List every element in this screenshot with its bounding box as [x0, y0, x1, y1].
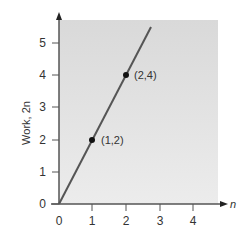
chart: 0 1 2 3 4 5 0 1 2 3 4 n Work, 2n (1,2) (…	[0, 0, 244, 243]
x-axis-title: n	[230, 198, 236, 210]
svg-text:0: 0	[56, 214, 63, 228]
point-label: (2,4)	[134, 69, 157, 81]
svg-text:0: 0	[39, 197, 46, 211]
svg-text:2: 2	[39, 133, 46, 147]
svg-text:5: 5	[39, 36, 46, 50]
x-axis-arrow-icon	[220, 201, 228, 207]
svg-text:1: 1	[39, 165, 46, 179]
svg-text:4: 4	[39, 68, 46, 82]
point-label: (1,2)	[101, 134, 124, 146]
y-axis-title: Work, 2n	[20, 101, 32, 145]
x-tick-labels: 0 1 2 3 4	[56, 214, 197, 228]
svg-text:3: 3	[39, 100, 46, 114]
svg-text:3: 3	[157, 214, 164, 228]
plot-area	[59, 20, 218, 204]
y-ticks	[52, 43, 59, 204]
y-axis-arrow-icon	[56, 12, 62, 20]
y-tick-labels: 0 1 2 3 4 5	[39, 36, 46, 211]
svg-text:2: 2	[123, 214, 130, 228]
svg-text:4: 4	[190, 214, 197, 228]
data-point	[89, 137, 95, 143]
svg-text:1: 1	[89, 214, 96, 228]
x-ticks	[92, 204, 193, 211]
data-point	[123, 72, 129, 78]
